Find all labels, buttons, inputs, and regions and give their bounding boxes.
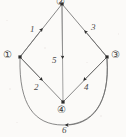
edge-4 (63, 57, 107, 102)
scan-speckle (118, 33, 119, 35)
node-marker-4 (61, 100, 64, 103)
scan-speckle (86, 62, 88, 63)
node-label-2: ② (56, 0, 65, 8)
node-marker-3 (105, 55, 108, 58)
edge-label-5: 5 (52, 56, 57, 65)
diagram-canvas: ② ① ③ ④ 1 2 3 4 5 6 (0, 0, 126, 137)
node-marker-1 (18, 55, 21, 58)
edge-label-1: 1 (30, 25, 35, 34)
scan-speckle (9, 88, 11, 90)
edge-label-4: 4 (84, 83, 89, 92)
edge-1 (20, 4, 62, 57)
edge-label-3: 3 (91, 23, 96, 32)
node-label-3: ③ (111, 51, 120, 61)
edge-3 (62, 4, 107, 57)
scan-speckle (16, 122, 18, 123)
edge-5 (62, 6, 63, 102)
node-label-1: ① (3, 51, 12, 61)
edge-label-6: 6 (62, 126, 67, 135)
node-label-4: ④ (57, 106, 66, 116)
scan-speckle (6, 20, 8, 21)
scan-speckle (44, 47, 46, 49)
edge-label-2: 2 (34, 83, 39, 92)
scan-speckle (100, 115, 102, 117)
graph-svg (0, 0, 126, 137)
